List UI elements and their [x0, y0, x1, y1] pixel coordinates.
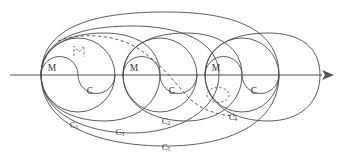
cell-3-label-m: M: [212, 63, 221, 73]
cell-1-label-c: C: [87, 86, 93, 96]
curve-label-c1: C1: [70, 120, 79, 130]
dashed-long-curve: [58, 36, 236, 116]
curve-label-c2: C2: [162, 116, 171, 126]
curve-label-c3: C3: [116, 127, 125, 137]
cell-3-label-c: C: [251, 86, 257, 96]
dashed-marker-upper-left: [74, 46, 84, 57]
cell-2-label-c: C: [169, 86, 175, 96]
contour-c4-path: [205, 33, 320, 121]
figure-root: M C M C M C C1 C2 C3 C4 C5: [0, 0, 338, 166]
cell-2-label-m: M: [130, 63, 139, 73]
cell-1-label-m: M: [48, 63, 57, 73]
axis-arrow-icon: [322, 70, 334, 80]
curve-label-c5: C5: [162, 142, 171, 152]
dashed-group: [58, 36, 236, 116]
dashed-marker-upper-left-shape: [74, 46, 84, 57]
curve-label-c4: C4: [229, 112, 238, 122]
diagram-canvas: M C M C M C C1 C2 C3 C4 C5: [0, 0, 338, 166]
cell-labels: M C M C M C: [48, 63, 257, 96]
contour-c4: [205, 33, 320, 121]
